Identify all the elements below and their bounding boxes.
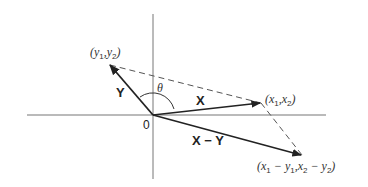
vector-x-arrow bbox=[153, 103, 260, 115]
dashed-line-y-to-x bbox=[110, 65, 261, 103]
vector-x-label: X bbox=[196, 93, 205, 108]
dashed-line-x-to-diff bbox=[261, 103, 302, 155]
theta-label: θ bbox=[157, 81, 163, 95]
point-y-label: (y1,y2) bbox=[90, 45, 121, 61]
point-x-label: (x1,x2) bbox=[265, 92, 296, 108]
vector-x-minus-y-arrow bbox=[153, 115, 301, 155]
point-difference-label: (x1 − y1,x2 − y2) bbox=[257, 159, 335, 175]
vector-y-label: Y bbox=[116, 85, 125, 100]
origin-label: 0 bbox=[143, 118, 150, 132]
vector-diagram: 0 θ Y X X − Y (y1,y2) (x1,x2) (x1 − y1,x… bbox=[0, 0, 368, 187]
vector-x-minus-y-label: X − Y bbox=[192, 133, 224, 148]
